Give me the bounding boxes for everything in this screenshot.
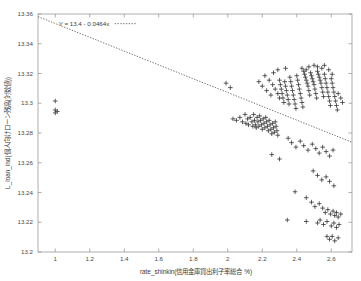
y-tick-label: 13.3: [21, 99, 34, 106]
x-tick-label: 1.6: [154, 255, 163, 262]
y-tick-label: 13.36: [18, 10, 34, 17]
x-tick-label: 1.4: [120, 255, 129, 262]
x-tick-label: 2.2: [258, 255, 267, 262]
y-tick-label: 13.26: [18, 159, 34, 166]
x-tick-label: 2.6: [327, 255, 336, 262]
scatter-plot-figure: 11.21.41.61.822.22.42.6 13.213.2213.2413…: [0, 0, 361, 281]
chart-canvas: 11.21.41.61.822.22.42.6 13.213.2213.2413…: [0, 0, 361, 281]
y-axis-title: L_loan_ind(個人向けローン残高(対数値)): [3, 77, 12, 189]
chart-background: [0, 0, 361, 281]
x-axis-title: rate_shinkin(信用金庫貸出利子率総合 %): [140, 267, 252, 276]
x-tick-label: 1.8: [189, 255, 198, 262]
x-tick-label: 1.2: [85, 255, 94, 262]
y-tick-label: 13.2: [21, 248, 34, 255]
x-tick-label: 2.4: [292, 255, 301, 262]
x-tick-label: 1: [54, 255, 58, 262]
y-tick-label: 13.24: [18, 189, 34, 196]
equation-label: Y = 13.4 - 0.0464x: [59, 20, 111, 27]
y-tick-label: 13.28: [18, 129, 34, 136]
y-tick-label: 13.32: [18, 70, 34, 77]
y-tick-label: 13.34: [18, 40, 34, 47]
x-tick-label: 2: [226, 255, 230, 262]
y-tick-label: 13.22: [18, 218, 34, 225]
